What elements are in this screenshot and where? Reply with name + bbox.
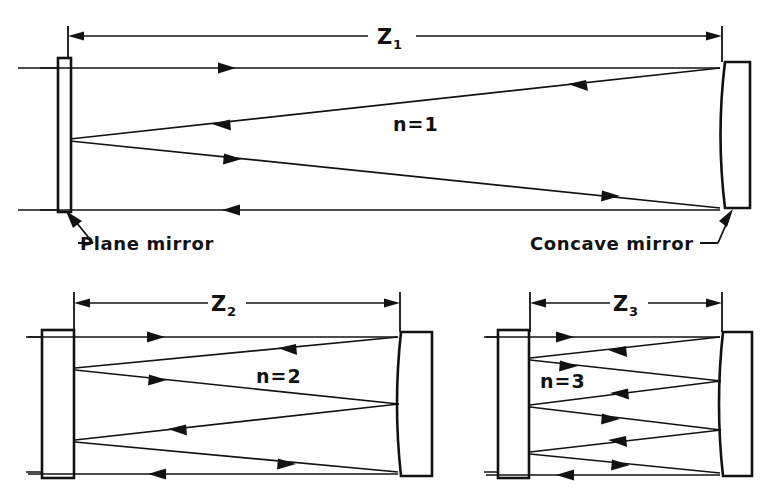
panel-n1: Z 1 n=1 xyxy=(18,25,750,254)
plane-mirror-n2 xyxy=(42,330,74,478)
pass-label-n1: n=1 xyxy=(393,113,439,135)
callout-concave-mirror: Concave mirror xyxy=(530,209,733,254)
callout-plane-mirror-label: Plane mirror xyxy=(80,233,214,254)
concave-mirror-n1 xyxy=(721,62,751,208)
plane-mirror-n1 xyxy=(58,58,71,212)
dimension-z1-label: Z xyxy=(377,25,393,49)
dimension-z1: Z 1 xyxy=(68,25,722,62)
dimension-z3-label: Z xyxy=(613,292,629,316)
plane-mirror-n3 xyxy=(498,330,529,478)
ray-path-n1 xyxy=(40,63,720,216)
pass-label-n2: n=2 xyxy=(256,365,302,387)
dimension-z3: Z 3 xyxy=(530,292,722,332)
panel-n3: Z 3 xyxy=(484,292,752,481)
figure-root: Z 1 n=1 xyxy=(0,0,784,501)
dimension-z1-subscript: 1 xyxy=(393,37,402,52)
dimension-z3-subscript: 3 xyxy=(629,304,638,319)
dimension-z2-subscript: 2 xyxy=(227,304,236,319)
callout-concave-mirror-label: Concave mirror xyxy=(530,233,694,254)
concave-mirror-n3 xyxy=(719,332,752,476)
dimension-z2: Z 2 xyxy=(74,292,400,332)
panel-n2: Z 2 xyxy=(26,292,432,480)
pass-label-n3: n=3 xyxy=(540,370,586,392)
callout-plane-mirror: Plane mirror xyxy=(66,211,214,254)
dimension-z2-label: Z xyxy=(211,292,227,316)
optical-cell-diagram: Z 1 n=1 xyxy=(0,0,784,501)
concave-mirror-n2 xyxy=(397,332,432,476)
ray-path-n2 xyxy=(28,332,399,480)
